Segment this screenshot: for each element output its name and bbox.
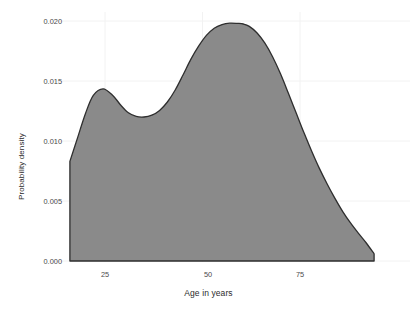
- x-axis-title: Age in years: [0, 288, 417, 298]
- y-tick-label: 0.015: [26, 77, 62, 86]
- y-tick-label: 0.020: [26, 17, 62, 26]
- y-tick-label: 0.005: [26, 197, 62, 206]
- density-area-group: [70, 23, 374, 261]
- x-tick-label: 25: [85, 270, 125, 279]
- plot-canvas: [0, 0, 417, 311]
- density-area: [70, 23, 374, 261]
- y-axis-title: Probability density: [17, 133, 26, 200]
- x-tick-label: 50: [188, 270, 228, 279]
- y-tick-label: 0.000: [26, 257, 62, 266]
- density-plot-figure: 0.020 0.015 0.010 0.005 0.000 25 50 75 A…: [0, 0, 417, 311]
- y-tick-label: 0.010: [26, 137, 62, 146]
- x-tick-label: 75: [280, 270, 320, 279]
